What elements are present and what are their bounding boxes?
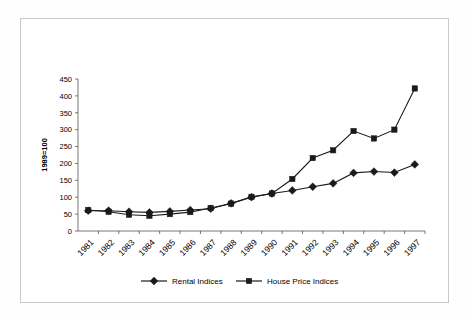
square-marker-icon [167,211,172,216]
y-tick-label: 250 [59,142,72,151]
y-tick-label: 300 [59,125,72,134]
y-axis-tick-labels: 050100150200250300350400450 [59,75,72,236]
x-tick-label: 1984 [136,237,157,258]
y-tick-label: 150 [59,176,72,185]
chart-legend: Rental IndicesHouse Price Indices [141,277,338,286]
y-tick-label: 450 [59,75,72,84]
x-tick-label: 1986 [177,237,198,258]
y-axis-ticks [75,79,78,231]
square-marker-icon [330,148,335,153]
square-marker-icon [228,201,233,206]
y-tick-label: 400 [59,92,72,101]
square-marker-icon [290,176,295,181]
legend-label: House Price Indices [267,277,338,286]
x-tick-label: 1987 [198,237,219,258]
square-marker-icon [351,128,356,133]
legend-label: Rental Indices [172,277,223,286]
x-tick-label: 1982 [96,237,117,258]
x-tick-label: 1985 [157,237,178,258]
line-chart-plot: 050100150200250300350400450 198119821983… [21,19,448,302]
diamond-icon [150,277,158,285]
x-tick-label: 1994 [341,237,362,258]
series-2 [86,86,418,219]
square-marker-icon [106,209,111,214]
diamond-marker-icon [288,187,296,195]
square-icon [246,278,251,283]
legend-entry-1[interactable]: Rental Indices [141,277,223,286]
diamond-marker-icon [370,168,378,176]
square-marker-icon [147,213,152,218]
x-tick-label: 1996 [381,237,402,258]
square-marker-icon [249,194,254,199]
x-tick-label: 1992 [300,237,321,258]
series-layer [84,86,418,219]
diamond-marker-icon [309,183,317,191]
y-tick-label: 50 [64,210,72,219]
x-tick-label: 1991 [279,237,300,258]
y-axis-title: 1989=100 [40,138,49,172]
x-tick-label: 1997 [402,237,423,258]
square-marker-icon [310,155,315,160]
square-marker-icon [371,136,376,141]
x-tick-label: 1990 [259,237,280,258]
x-tick-label: 1988 [218,237,239,258]
x-axis-tick-labels: 1981198219831984198519861987198819891990… [75,237,422,258]
diamond-marker-icon [411,161,419,169]
legend-entry-2[interactable]: House Price Indices [236,277,338,286]
y-tick-label: 100 [59,193,72,202]
square-marker-icon [86,207,91,212]
y-tick-label: 350 [59,109,72,118]
x-tick-label: 1995 [361,237,382,258]
chart-frame: 050100150200250300350400450 198119821983… [20,18,449,303]
square-marker-icon [412,86,417,91]
chart-figure: 050100150200250300350400450 198119821983… [0,0,469,321]
diamond-marker-icon [350,169,358,177]
x-tick-label: 1989 [238,237,259,258]
square-marker-icon [188,209,193,214]
x-tick-label: 1993 [320,237,341,258]
square-marker-icon [392,127,397,132]
diamond-marker-icon [329,179,337,187]
square-marker-icon [269,191,274,196]
series-line [88,164,415,212]
series-1 [84,161,418,217]
x-tick-label: 1983 [116,237,137,258]
x-tick-label: 1981 [75,237,96,258]
x-axis-ticks [98,231,425,234]
square-marker-icon [126,212,131,217]
y-tick-label: 0 [68,227,72,236]
diamond-marker-icon [390,169,398,177]
square-marker-icon [208,205,213,210]
y-tick-label: 200 [59,159,72,168]
